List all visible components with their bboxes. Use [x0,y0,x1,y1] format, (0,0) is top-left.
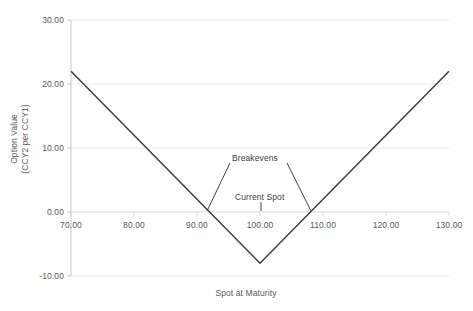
x-axis-ticks [71,212,449,216]
leader-line-breakeven-left [207,163,230,211]
x-tick-label-100: 100.00 [240,220,280,230]
x-tick-label-80: 80.00 [114,220,154,230]
y-axis-title: Option Value (CCY2 per CCY1) [9,89,31,189]
gridlines-horizontal [71,20,449,276]
y-tick-label-minus10: -10.00 [14,271,64,281]
x-tick-label-90: 90.00 [177,220,217,230]
leader-line-breakeven-right [287,163,311,211]
y-tick-label-0: 0.00 [14,207,64,217]
y-tick-label-30: 30.00 [14,15,64,25]
option-payoff-chart: 30.00 20.00 10.00 0.00 -10.00 70.00 80.0… [0,0,473,311]
x-tick-label-70: 70.00 [51,220,91,230]
y-tick-label-20: 20.00 [14,79,64,89]
x-axis-title: Spot at Maturity [186,288,306,298]
annotation-breakevens: Breakevens [232,153,278,163]
series-line-option-value [71,71,449,263]
y-axis-title-line2: (CCY2 per CCY1) [20,89,31,189]
x-tick-label-110: 110.00 [303,220,343,230]
x-tick-label-120: 120.00 [366,220,406,230]
annotation-leaders [207,163,311,211]
y-axis-title-line1: Option Value [9,89,20,189]
y-axis-ticks [67,20,71,276]
annotation-current-spot: Current Spot [235,192,284,202]
x-tick-label-130: 130.00 [429,220,469,230]
